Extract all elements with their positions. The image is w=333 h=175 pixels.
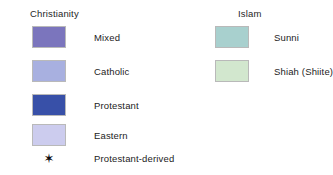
color-swatch-shiah — [215, 60, 249, 82]
legend-item-mixed[interactable]: Mixed — [32, 26, 120, 48]
legend-item-shiah[interactable]: Shiah (Shiite) — [215, 60, 333, 82]
color-swatch-catholic — [32, 60, 66, 82]
legend-item-label-eastern: Eastern — [94, 130, 128, 141]
legend-group-title-christianity: Christianity — [30, 8, 79, 19]
legend-item-label-mixed: Mixed — [94, 32, 120, 43]
legend-item-label-catholic: Catholic — [94, 66, 130, 77]
legend-item-label-protestant: Protestant — [94, 100, 139, 111]
legend-note-label: Protestant-derived — [94, 153, 174, 164]
legend-group-title-islam: Islam — [238, 8, 261, 19]
legend-item-catholic[interactable]: Catholic — [32, 60, 130, 82]
legend-item-eastern[interactable]: Eastern — [32, 124, 128, 146]
color-swatch-sunni — [215, 26, 249, 48]
legend-group-christianity: Christianity Mixed Catholic Protestant E… — [0, 0, 175, 175]
legend-note-protestant-derived: ✶ Protestant-derived — [32, 150, 174, 166]
color-swatch-eastern — [32, 124, 66, 146]
legend-group-islam: Islam Sunni Shiah (Shiite) — [175, 0, 324, 175]
legend-item-label-sunni: Sunni — [274, 32, 299, 43]
color-swatch-protestant — [32, 94, 66, 116]
color-swatch-mixed — [32, 26, 66, 48]
legend-item-label-shiah: Shiah (Shiite) — [274, 66, 333, 77]
legend-item-protestant[interactable]: Protestant — [32, 94, 139, 116]
star-icon: ✶ — [32, 152, 66, 165]
legend-item-sunni[interactable]: Sunni — [215, 26, 299, 48]
